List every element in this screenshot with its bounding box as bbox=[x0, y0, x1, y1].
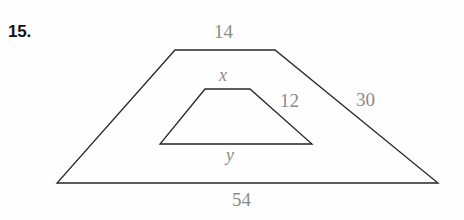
inner-right-leg-length-label: 12 bbox=[280, 91, 299, 110]
outer-right-leg-length-label: 30 bbox=[356, 90, 375, 109]
outer-trapezoid-shape bbox=[57, 50, 438, 183]
inner-bottom-length-label: y bbox=[226, 146, 234, 164]
outer-bottom-length-label: 54 bbox=[232, 190, 251, 209]
inner-top-length-label: x bbox=[219, 66, 227, 84]
outer-top-length-label: 14 bbox=[214, 22, 233, 41]
problem-figure-screenshot: 15. 14 30 54 x 12 y bbox=[0, 0, 464, 220]
